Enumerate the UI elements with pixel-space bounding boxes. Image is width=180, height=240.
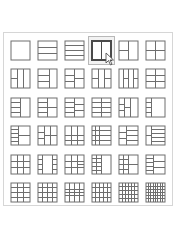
layout-option-layout-3x3-right-split[interactable] [61,150,88,179]
layout-3-cols-mixed-icon [37,125,58,146]
layout-left-5-right-1-icon [91,154,112,175]
layout-option-layout-narrow-left-5-rows[interactable] [142,122,169,151]
layout-option-layout-4x4-center[interactable] [61,179,88,208]
layout-left-4-rows-right-3-icon [64,97,85,118]
layout-5x4-icon [91,182,112,203]
layout-option-layout-left-4-right-4[interactable] [88,122,115,151]
layout-option-layout-3x3-offset[interactable] [61,122,88,151]
layout-4x4-icon [37,182,58,203]
layout-option-layout-left-3-rows-right-2[interactable] [61,65,88,94]
layout-option-layout-4-rows[interactable] [61,36,88,65]
layout-option-layout-6x5[interactable] [115,179,142,208]
layout-4-rows-icon [64,40,85,61]
layout-left-4-right-4-icon [91,125,112,146]
layout-option-layout-3x4[interactable] [7,179,34,208]
layout-narrow-left-5-rows-icon [145,125,166,146]
layout-option-layout-2x2[interactable] [142,36,169,65]
layout-left-3-rows-right-2-icon [64,68,85,89]
layout-left-5-rows-right-2-icon [10,125,31,146]
layout-left-3-right-4-icon [118,125,139,146]
layout-option-layout-5x4[interactable] [88,179,115,208]
layout-option-layout-2x3[interactable] [142,65,169,94]
layout-3x3-offset-icon [64,125,85,146]
layout-grid [7,36,169,207]
layout-2x3-icon [145,68,166,89]
layout-1x1-icon [10,40,31,61]
layout-3-cols-side-rows-icon [37,154,58,175]
layout-option-layout-left-4-rows-right-3[interactable] [61,93,88,122]
layout-option-layout-3-rows[interactable] [34,36,61,65]
layout-left-4-rows-right-2-icon [37,97,58,118]
layout-option-layout-3-cols-split-left-right[interactable] [88,65,115,94]
layout-2x2-icon [145,40,166,61]
layout-8x6-icon [145,182,166,203]
layout-option-layout-3-cols-split-left[interactable] [7,65,34,94]
layout-option-layout-left-4-right-2[interactable] [115,150,142,179]
layout-narrow-left-4-rows-icon [145,97,166,118]
layout-option-layout-2x4[interactable] [88,93,115,122]
layout-option-layout-left-col-split-wide-right[interactable] [115,93,142,122]
layout-3-cols-split-left-icon [10,68,31,89]
layout-3x4-icon [10,182,31,203]
layout-option-layout-left-4-rows-right-1[interactable] [7,93,34,122]
layout-4-cols-split-icon [118,68,139,89]
layout-4x4-center-icon [64,182,85,203]
layout-option-layout-left-3-right-4[interactable] [115,122,142,151]
layout-1-top-2-bottom-icon [118,40,139,61]
layout-option-layout-left-3-rows-right-1[interactable] [34,65,61,94]
layout-option-layout-2-cols[interactable] [88,36,115,65]
layout-6x5-icon [118,182,139,203]
layout-3-cols-split-left-right-icon [91,68,112,89]
layout-left-4-rows-right-1-icon [10,97,31,118]
layout-option-layout-3x3[interactable] [7,150,34,179]
layout-option-layout-left-5-rows-right-2[interactable] [7,122,34,151]
layout-option-layout-8x6[interactable] [142,179,169,208]
layout-option-layout-left-5-right-3[interactable] [142,150,169,179]
layout-option-layout-left-4-rows-right-2[interactable] [34,93,61,122]
layout-option-layout-4x4[interactable] [34,179,61,208]
layout-option-layout-1-top-2-bottom[interactable] [115,36,142,65]
layout-3x3-icon [10,154,31,175]
layout-2x4-icon [91,97,112,118]
layout-left-4-right-2-icon [118,154,139,175]
layout-option-layout-1x1[interactable] [7,36,34,65]
layout-option-layout-4-cols-split[interactable] [115,65,142,94]
layout-left-col-split-wide-right-icon [118,97,139,118]
layout-3x3-right-split-icon [64,154,85,175]
layout-picker-panel [3,32,173,206]
layout-left-3-rows-right-1-icon [37,68,58,89]
layout-option-layout-left-5-right-1[interactable] [88,150,115,179]
layout-option-layout-3-cols-mixed[interactable] [34,122,61,151]
layout-option-layout-3-cols-side-rows[interactable] [34,150,61,179]
layout-3-rows-icon [37,40,58,61]
layout-option-layout-narrow-left-4-rows[interactable] [142,93,169,122]
layout-left-5-right-3-icon [145,154,166,175]
